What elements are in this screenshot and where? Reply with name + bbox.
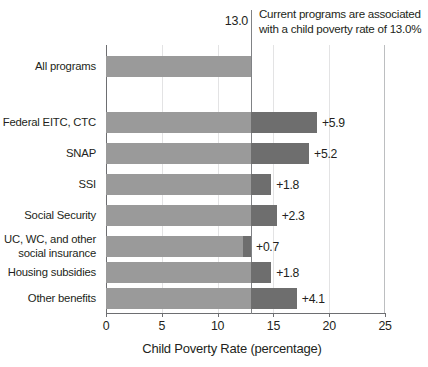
bar-segment-increment: [251, 143, 309, 164]
category-label: UC, WC, and othersocial insurance: [0, 233, 96, 261]
x-tick-label: 10: [211, 319, 224, 333]
bar-value-label: +4.1: [302, 292, 325, 306]
category-label: SNAP: [0, 147, 96, 161]
x-tick-label: 15: [267, 319, 280, 333]
category-label: SSI: [0, 178, 96, 192]
category-label-line: Social Security: [0, 209, 96, 223]
x-tick-label: 5: [159, 319, 166, 333]
x-axis-line: [106, 313, 386, 314]
category-label: Other benefits: [0, 292, 96, 306]
bar-segment-base: [106, 56, 251, 77]
category-label-line: All programs: [0, 60, 96, 74]
x-tick-label: 20: [323, 319, 336, 333]
category-label-line: Housing subsidies: [0, 266, 96, 280]
x-tick-mark: [329, 313, 330, 317]
bar-value-label: +0.7: [256, 240, 279, 254]
bar-value-label: +1.8: [276, 178, 299, 192]
chart-container: 13.0 Current programs are associated wit…: [0, 0, 428, 367]
annotation-line-2: with a child poverty rate of 13.0%: [259, 21, 427, 36]
x-tick-mark: [106, 313, 107, 317]
bar-segment-base: [106, 236, 243, 257]
bar-segment-base: [106, 205, 251, 226]
chart-annotation: Current programs are associated with a c…: [259, 6, 427, 37]
x-tick-mark: [273, 313, 274, 317]
bar-value-label: +2.3: [282, 209, 305, 223]
bar-value-label: +1.8: [276, 266, 299, 280]
x-tick-mark: [218, 313, 219, 317]
bar-segment-increment: [251, 205, 277, 226]
category-label-line: SSI: [0, 178, 96, 192]
category-label: Housing subsidies: [0, 266, 96, 280]
bar-segment-base: [106, 143, 251, 164]
x-tick-label: 25: [378, 319, 391, 333]
bar-value-label: +5.2: [314, 147, 337, 161]
category-label-line: UC, WC, and other: [0, 233, 96, 247]
annotation-line-1: Current programs are associated: [259, 6, 427, 21]
category-label: Federal EITC, CTC: [0, 116, 96, 130]
category-label-line: Other benefits: [0, 292, 96, 306]
x-axis-title: Child Poverty Rate (percentage): [0, 341, 428, 356]
bar-segment-base: [106, 174, 251, 195]
category-label-line: SNAP: [0, 147, 96, 161]
bar-value-label: +5.9: [322, 116, 345, 130]
bar-segment-base: [106, 288, 251, 309]
category-label: All programs: [0, 60, 96, 74]
category-label-line: social insurance: [0, 247, 96, 261]
x-tick-label: 0: [103, 319, 110, 333]
x-tick-mark: [385, 313, 386, 317]
category-label-line: Federal EITC, CTC: [0, 116, 96, 130]
bar-segment-increment: [251, 288, 297, 309]
reference-value-label: 13.0: [206, 14, 248, 28]
bar-segment-increment: [243, 236, 251, 257]
bar-segment-base: [106, 112, 251, 133]
bar-segment-increment: [251, 262, 271, 283]
bar-segment-base: [106, 262, 251, 283]
bar-segment-increment: [251, 174, 271, 195]
x-tick-mark: [162, 313, 163, 317]
category-label: Social Security: [0, 209, 96, 223]
bar-segment-increment: [251, 112, 317, 133]
